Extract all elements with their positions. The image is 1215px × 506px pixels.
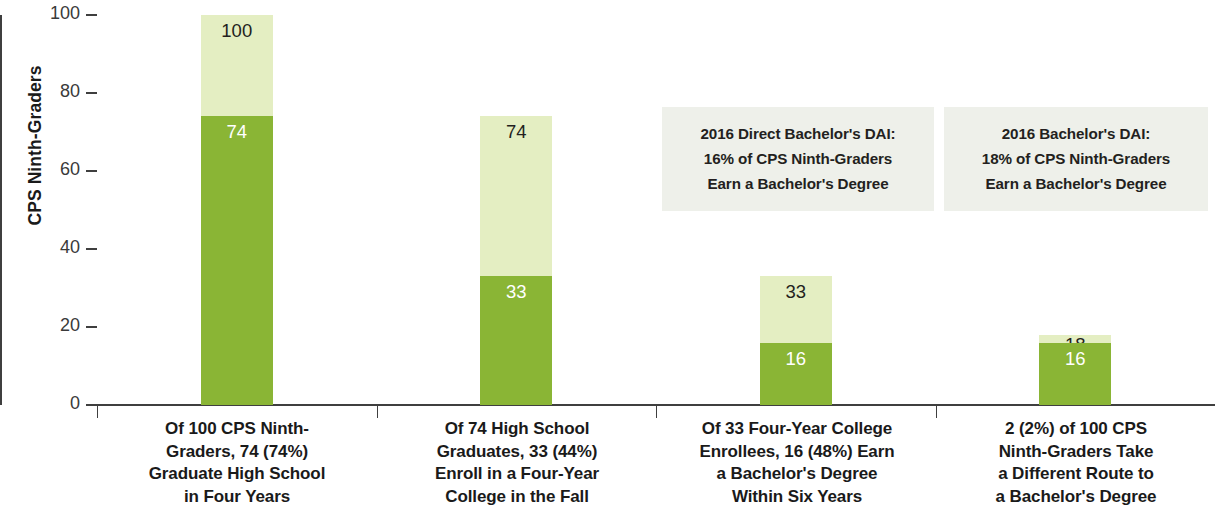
y-tick-mark-60: [86, 170, 97, 172]
y-axis-title: CPS Ninth-Graders: [25, 16, 46, 276]
bar-1-filled-label: 33: [480, 283, 552, 302]
category-label-0-line-0: Of 100 CPS Ninth-: [97, 418, 377, 441]
y-tick-label-40: 40: [60, 237, 80, 258]
category-label-1-line-2: Enroll in a Four-Year: [377, 463, 657, 486]
y-axis-line: [0, 15, 2, 405]
category-label-1-line-0: Of 74 High School: [377, 418, 657, 441]
category-label-1-line-1: Graduates, 33 (44%): [377, 441, 657, 464]
annotation-bachelors-line-2: Earn a Bachelor's Degree: [952, 171, 1200, 196]
category-label-3-line-3: a Bachelor's Degree: [937, 486, 1215, 506]
category-label-2: Of 33 Four-Year College Enrollees, 16 (4…: [657, 418, 937, 506]
y-tick-label-80: 80: [60, 81, 80, 102]
category-label-0-line-1: Graders, 74 (74%): [97, 441, 377, 464]
y-tick-label-20: 20: [60, 315, 80, 336]
annotation-direct-line-2: Earn a Bachelor's Degree: [670, 171, 926, 196]
category-label-3: 2 (2%) of 100 CPS Ninth-Graders Take a D…: [937, 418, 1215, 506]
category-label-2-line-3: Within Six Years: [657, 486, 937, 506]
bar-2-total-segment[interactable]: 33: [760, 276, 832, 342]
category-label-2-line-2: a Bachelor's Degree: [657, 463, 937, 486]
category-label-0-line-3: in Four Years: [97, 486, 377, 506]
x-axis-separator-1: [377, 405, 378, 418]
category-label-3-line-0: 2 (2%) of 100 CPS: [937, 418, 1215, 441]
bar-1-total-label: 74: [480, 123, 552, 142]
bar-2-total-label: 33: [760, 283, 832, 302]
category-label-2-line-0: Of 33 Four-Year College: [657, 418, 937, 441]
y-tick-mark-0: [86, 404, 97, 406]
stacked-bar-chart-figure: CPS Ninth-Graders 020406080100 100747433…: [0, 0, 1215, 506]
bar-1-filled-segment[interactable]: 33: [480, 276, 552, 405]
bar-group-2[interactable]: 3316: [760, 276, 832, 405]
bar-3-total-segment[interactable]: 18: [1039, 335, 1111, 343]
category-label-3-line-2: a Different Route to: [937, 463, 1215, 486]
bar-0-filled-segment[interactable]: 74: [201, 116, 273, 405]
y-tick-label-0: 0: [70, 393, 80, 414]
bar-1-total-segment[interactable]: 74: [480, 116, 552, 276]
bar-2-filled-label: 16: [760, 350, 832, 369]
annotation-direct-line-1: 16% of CPS Ninth-Graders: [670, 146, 926, 171]
y-tick-mark-80: [86, 92, 97, 94]
y-tick-label-60: 60: [60, 159, 80, 180]
bar-group-0[interactable]: 10074: [201, 15, 273, 405]
category-label-1: Of 74 High School Graduates, 33 (44%) En…: [377, 418, 657, 506]
annotation-bachelors-line-0: 2016 Bachelor's DAI:: [952, 121, 1200, 146]
x-axis-separator-0: [97, 405, 98, 418]
annotation-direct-line-0: 2016 Direct Bachelor's DAI:: [670, 121, 926, 146]
category-label-0: Of 100 CPS Ninth- Graders, 74 (74%) Grad…: [97, 418, 377, 506]
x-axis-separator-3: [936, 405, 937, 418]
annotation-bachelors-dai: 2016 Bachelor's DAI: 18% of CPS Ninth-Gr…: [944, 107, 1208, 211]
y-tick-mark-40: [86, 248, 97, 250]
bar-0-filled-label: 74: [201, 123, 273, 142]
y-tick-mark-20: [86, 326, 97, 328]
bar-group-1[interactable]: 7433: [480, 116, 552, 405]
category-label-1-line-3: College in the Fall: [377, 486, 657, 506]
category-label-2-line-1: Enrollees, 16 (48%) Earn: [657, 441, 937, 464]
bar-3-filled-segment[interactable]: 16: [1039, 343, 1111, 405]
category-label-3-line-1: Ninth-Graders Take: [937, 441, 1215, 464]
category-label-0-line-2: Graduate High School: [97, 463, 377, 486]
x-axis-separator-2: [656, 405, 657, 418]
y-tick-mark-100: [86, 14, 97, 16]
bar-3-filled-label: 16: [1039, 350, 1111, 369]
annotation-bachelors-line-1: 18% of CPS Ninth-Graders: [952, 146, 1200, 171]
annotation-direct-bachelors-dai: 2016 Direct Bachelor's DAI: 16% of CPS N…: [662, 107, 934, 211]
bar-2-filled-segment[interactable]: 16: [760, 343, 832, 405]
bar-0-total-segment[interactable]: 100: [201, 15, 273, 116]
bar-0-total-label: 100: [201, 22, 273, 41]
y-tick-label-100: 100: [50, 3, 80, 24]
bar-group-3[interactable]: 1816: [1039, 335, 1111, 405]
